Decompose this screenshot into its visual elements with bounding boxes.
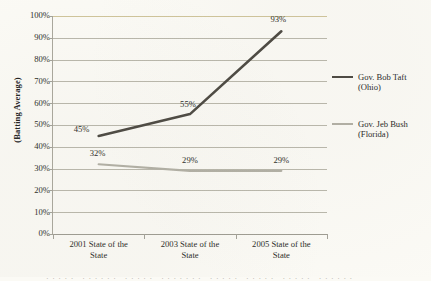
x-axis-tick-label-line2: State bbox=[227, 250, 335, 261]
x-axis-tick-labels: 2001 State of theState2003 State of theS… bbox=[53, 239, 327, 275]
legend-line-swatch bbox=[332, 123, 353, 125]
x-axis-tick-label-line1: 2001 State of the bbox=[69, 239, 127, 249]
data-point-label: 29% bbox=[273, 155, 289, 164]
y-axis-tick-label: 10% bbox=[10, 208, 50, 217]
legend-label-line1: Gov. Jeb Bush bbox=[358, 119, 408, 129]
data-point-label: 93% bbox=[270, 15, 286, 24]
y-axis-tick-labels: 100%90%80%70%60%50%40%30%20%10%0% bbox=[8, 0, 50, 277]
y-axis-tick-label: 90% bbox=[10, 33, 50, 42]
gridline bbox=[53, 234, 327, 235]
data-point-label: 45% bbox=[74, 124, 90, 133]
y-axis-tick-label: 20% bbox=[10, 186, 50, 195]
legend-entry-2[interactable]: Gov. Jeb Bush(Florida) bbox=[332, 119, 431, 140]
y-axis-tick-label: 60% bbox=[10, 99, 50, 108]
y-axis-tick-label: 50% bbox=[10, 120, 50, 129]
legend-label-line2: (Ohio) bbox=[358, 82, 407, 92]
series-line-2 bbox=[99, 164, 282, 171]
legend-line-swatch bbox=[332, 76, 353, 78]
y-axis-tick-label: 70% bbox=[10, 77, 50, 86]
y-axis-tick-label: 0% bbox=[10, 229, 50, 238]
legend-label: Gov. Jeb Bush(Florida) bbox=[358, 119, 408, 140]
legend-label-line2: (Florida) bbox=[358, 129, 408, 139]
series-line-1 bbox=[99, 31, 282, 136]
x-axis-tick-label: 2005 State of theState bbox=[227, 239, 335, 261]
y-axis-tick-label: 80% bbox=[10, 55, 50, 64]
plot-area: 45%55%93%32%29%29% bbox=[53, 16, 327, 234]
data-point-label: 32% bbox=[90, 149, 106, 158]
x-axis-tick-label-line1: 2003 State of the bbox=[161, 239, 219, 249]
y-axis-tick-label: 40% bbox=[10, 142, 50, 151]
series-lines bbox=[53, 16, 327, 234]
legend-label: Gov. Bob Taft(Ohio) bbox=[358, 72, 407, 93]
x-axis-tick-label-line1: 2005 State of the bbox=[252, 239, 310, 249]
chart-legend: Gov. Bob Taft(Ohio)Gov. Jeb Bush(Florida… bbox=[332, 0, 431, 277]
data-point-label: 55% bbox=[180, 100, 196, 109]
y-axis-tick-label: 100% bbox=[10, 11, 50, 20]
page-text-sliver: ····· ······ ····· ······· ····· ····· ·… bbox=[46, 274, 386, 281]
legend-label-line1: Gov. Bob Taft bbox=[358, 72, 407, 82]
legend-entry-1[interactable]: Gov. Bob Taft(Ohio) bbox=[332, 72, 431, 93]
y-axis-tick-label: 30% bbox=[10, 164, 50, 173]
data-point-label: 29% bbox=[182, 155, 198, 164]
